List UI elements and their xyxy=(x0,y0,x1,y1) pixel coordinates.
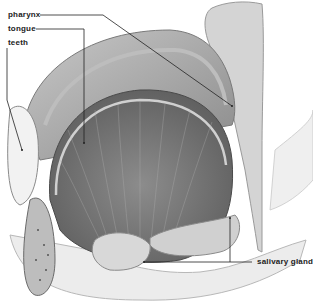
label-tongue: tongue xyxy=(8,24,36,33)
label-salivary-glands: salivary glands xyxy=(257,257,313,266)
salivary-gland-sublingual xyxy=(92,233,150,270)
mouth-anatomy-illustration: pharynx tongue teeth salivary glands xyxy=(0,0,313,304)
label-teeth: teeth xyxy=(8,38,28,47)
teeth xyxy=(8,106,39,205)
label-pharynx: pharynx xyxy=(8,10,41,19)
mandible-bone xyxy=(24,198,55,295)
